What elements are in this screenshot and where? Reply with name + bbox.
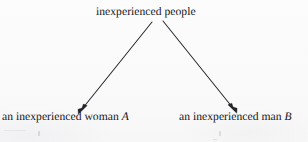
diagram-canvas: inexperienced people an inexperienced wo…	[0, 0, 308, 142]
scan-artifact	[4, 130, 26, 131]
node-root-label: inexperienced people	[96, 6, 196, 18]
node-man-variable: B	[284, 110, 291, 123]
scan-artifact	[38, 131, 40, 136]
edge-root-to-woman	[78, 22, 152, 114]
node-woman-label: an inexperienced woman A	[2, 111, 129, 123]
edge-root-to-man	[163, 21, 237, 113]
node-man-text: an inexperienced man	[179, 110, 282, 123]
edge-root-to-man-line	[163, 21, 233, 108]
scan-artifact	[219, 131, 221, 136]
node-woman-variable: A	[122, 110, 129, 123]
node-man-label: an inexperienced man B	[179, 111, 292, 123]
node-woman-text: an inexperienced woman	[2, 110, 119, 123]
scan-artifact	[213, 139, 217, 140]
edge-root-to-woman-line	[83, 22, 153, 109]
